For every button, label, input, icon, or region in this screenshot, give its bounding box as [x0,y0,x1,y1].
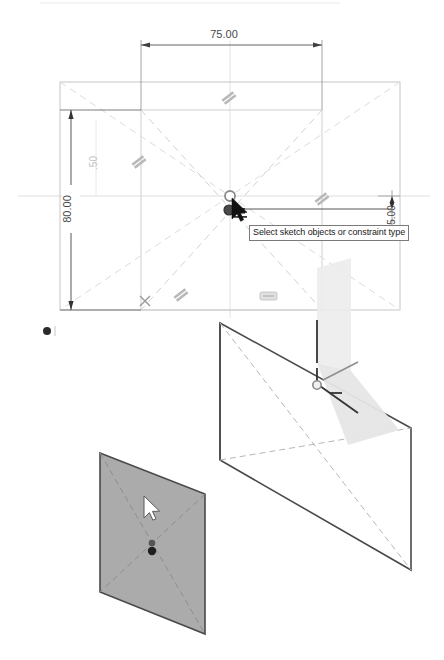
sketch-plane-translucent[interactable] [317,258,399,445]
model-viewport-layer[interactable] [0,0,444,660]
status-dot-marker[interactable] [43,326,56,336]
application-canvas: 75.00 80.00 .50 5.00 [0,0,444,660]
reference-plane-large[interactable] [220,323,411,570]
model-origin-point[interactable] [313,381,321,389]
